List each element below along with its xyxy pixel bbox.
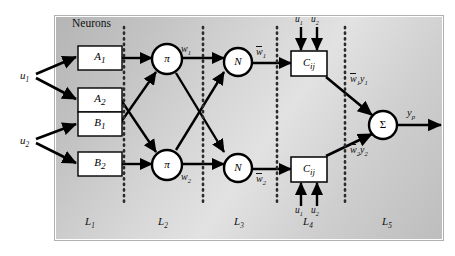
edge-label-wbar1y1: w1y1 <box>350 74 368 87</box>
node-label-Cij-bottom: Cij <box>291 164 327 177</box>
input-fanout-edges <box>36 57 76 163</box>
neurons-title: Neurons <box>72 18 111 30</box>
consequent-input-label-top-u1: u1 <box>295 15 303 26</box>
layer3-to-layer4-edges <box>252 63 291 169</box>
node-label-A1: A1 <box>78 51 122 65</box>
edge-label-output: yp <box>407 108 415 121</box>
edge-label-w2: w2 <box>181 172 191 185</box>
node-label-sigma: Σ <box>369 119 397 130</box>
layer-label-L5: L5 <box>382 216 392 230</box>
layer-label-L1: L1 <box>85 216 95 230</box>
edge-label-w1: w1 <box>181 44 191 57</box>
consequent-input-label-top-u2: u2 <box>311 15 319 26</box>
figure-canvas: Neurons u1 u2 A1 A2 B1 B2 π π N N Cij Ci… <box>0 0 455 256</box>
layer-label-L4: L4 <box>303 216 313 230</box>
input-label-u2: u2 <box>20 135 29 149</box>
node-label-A2: A2 <box>78 93 122 107</box>
node-label-Cij-top: Cij <box>291 58 327 71</box>
consequent-input-label-bottom-u1: u1 <box>295 206 303 217</box>
layer-label-L3: L3 <box>234 216 244 230</box>
layer-label-L2: L2 <box>158 216 168 230</box>
node-label-B2: B2 <box>78 157 122 171</box>
layer1-to-layer2-edges <box>121 58 156 164</box>
edge-label-wbar2y2: w2y2 <box>350 145 368 158</box>
node-label-pi-top: π <box>152 53 182 64</box>
node-label-B1: B1 <box>78 117 122 131</box>
edge-label-wbar1: w1 <box>256 47 266 60</box>
node-label-N-bottom: N <box>224 162 252 173</box>
node-label-N-top: N <box>224 56 252 67</box>
input-label-u1: u1 <box>20 70 29 84</box>
node-label-pi-bottom: π <box>152 159 182 170</box>
edge-label-wbar2: w2 <box>256 174 266 187</box>
layer2-to-layer3-edges <box>176 58 224 164</box>
